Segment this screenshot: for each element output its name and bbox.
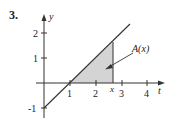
y-tick-1: 1 — [33, 53, 38, 64]
problem-number: 3. — [9, 8, 18, 22]
area-label: A(x) — [131, 43, 150, 55]
x-tick-1: 1 — [67, 88, 72, 99]
y-axis-arrow-icon — [42, 14, 47, 21]
function-line — [44, 24, 130, 108]
y-tick-neg1: -1 — [28, 103, 36, 114]
area-function-diagram: 3. t y 1 2 3 4 2 1 -1 x A(x) — [0, 0, 171, 121]
x-axis-label: t — [158, 85, 161, 96]
y-tick-2: 2 — [33, 28, 38, 39]
y-axis-label: y — [48, 11, 54, 22]
x-tick-2: 2 — [93, 88, 98, 99]
x-tick-3: 3 — [119, 88, 124, 99]
x-marker-label: x — [109, 84, 114, 94]
x-tick-4: 4 — [144, 88, 149, 99]
